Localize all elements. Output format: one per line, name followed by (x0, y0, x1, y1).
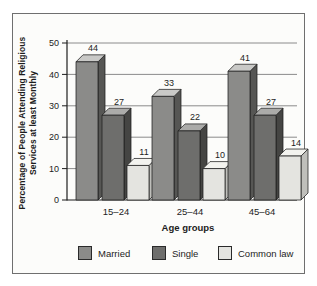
y-tick-label: 30 (49, 101, 59, 111)
bar-value-label: 44 (88, 43, 98, 53)
legend-item-married: Married (78, 246, 130, 260)
bar (178, 131, 200, 200)
bar (127, 165, 149, 200)
bar (102, 115, 124, 200)
bar-value-label: 41 (240, 53, 250, 63)
legend-label-married: Married (98, 248, 130, 259)
bar-value-label: 22 (190, 112, 200, 122)
bar-chart-plot: 0102030405044271115–2433221025–444127144… (0, 0, 317, 286)
legend-label-common-law: Common law (238, 248, 293, 259)
bar-value-label: 27 (114, 97, 124, 107)
legend-item-single: Single (152, 246, 198, 260)
bar-value-label: 27 (266, 97, 276, 107)
x-category-label: 45–64 (249, 206, 275, 217)
bar (76, 62, 98, 200)
x-category-label: 15–24 (103, 206, 129, 217)
bar-value-label: 10 (215, 150, 225, 160)
y-tick-label: 10 (49, 164, 59, 174)
bar (203, 169, 225, 200)
bar-value-label: 33 (164, 78, 174, 88)
y-tick-label: 20 (49, 132, 59, 142)
y-tick-label: 0 (54, 195, 59, 205)
bar (254, 115, 276, 200)
bar-side-face (301, 149, 308, 200)
bar (279, 156, 301, 200)
y-tick-label: 40 (49, 70, 59, 80)
bar-value-label: 14 (291, 138, 301, 148)
legend-label-single: Single (172, 248, 198, 259)
bar-value-label: 11 (139, 147, 148, 157)
x-category-label: 25–44 (177, 206, 203, 217)
y-tick-label: 50 (49, 38, 59, 48)
legend-item-common-law: Common law (218, 246, 293, 260)
married-swatch-icon (78, 246, 92, 260)
x-axis-title: Age groups (73, 222, 303, 233)
common-law-swatch-icon (218, 246, 232, 260)
bar (152, 96, 174, 200)
single-swatch-icon (152, 246, 166, 260)
bar (228, 71, 250, 200)
